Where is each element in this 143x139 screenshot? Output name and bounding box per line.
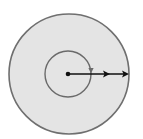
center-dot (66, 72, 71, 77)
rotating-disk-diagram (0, 0, 143, 139)
